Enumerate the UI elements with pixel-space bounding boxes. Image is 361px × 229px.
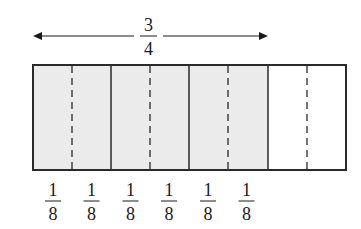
eighth-numerator: 1 <box>49 180 58 200</box>
eighth-numerator: 1 <box>165 180 174 200</box>
top-fraction-numerator: 3 <box>144 15 153 35</box>
eighth-denominator: 8 <box>49 204 58 224</box>
eighth-label: 1 8 <box>200 180 216 224</box>
bottom-eighth-labels: 1 8 1 8 1 8 1 8 1 8 1 8 <box>45 180 255 224</box>
eighth-numerator: 1 <box>204 180 213 200</box>
eighth-denominator: 8 <box>242 204 251 224</box>
eighth-denominator: 8 <box>126 204 135 224</box>
eighth-label: 1 8 <box>45 180 61 224</box>
arrowhead-right-icon <box>259 32 268 40</box>
eighth-numerator: 1 <box>126 180 135 200</box>
eighth-denominator: 8 <box>87 204 96 224</box>
eighth-label: 1 8 <box>84 180 100 224</box>
top-fraction-label: 3 4 <box>140 15 157 59</box>
eighth-denominator: 8 <box>165 204 174 224</box>
eighth-numerator: 1 <box>242 180 251 200</box>
eighth-denominator: 8 <box>204 204 213 224</box>
eighth-label: 1 8 <box>161 180 177 224</box>
fraction-bar-diagram: 3 4 1 8 1 8 1 8 1 8 1 8 1 <box>0 0 361 229</box>
eighth-numerator: 1 <box>87 180 96 200</box>
eighth-label: 1 8 <box>239 180 255 224</box>
eighth-label: 1 8 <box>123 180 139 224</box>
arrowhead-left-icon <box>33 32 42 40</box>
top-fraction-denominator: 4 <box>144 39 153 59</box>
